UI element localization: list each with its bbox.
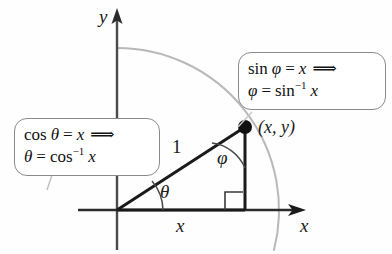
x-axis-label: x [300,216,308,235]
sin-value-x: x [299,59,307,78]
inverse-trig-diagram: y x 1 x θ φ (x, y) cosθ=x⟹ θ=cos−1x sinφ… [0,0,392,254]
cos-inverse-equals-sign: = [36,147,46,166]
cosine-callout-tail [47,175,52,190]
sine-callout-line-1: sinφ=x⟹ [248,58,376,79]
vertex-coordinate-label: (x, y) [258,118,295,136]
sin-function-name: sin [248,59,268,78]
right-angle-marker [225,192,243,210]
sin-angle-symbol: φ [272,59,281,78]
sin-inverse-equals-sign: = [261,81,271,100]
cosine-callout-box: cosθ=x⟹ θ=cos−1x [14,118,160,176]
sin-inverse-exponent: −1 [295,79,307,91]
sine-callout-line-2: φ=sin−1x [248,79,376,101]
cos-angle-symbol: θ [51,125,59,144]
sin-inverse-value-x: x [311,81,319,100]
sin-implies-arrow: ⟹ [312,59,336,78]
theta-angle-label: θ [160,182,169,201]
cos-inverse-function-name: cos [50,147,73,166]
cos-equals-sign: = [63,125,73,144]
cos-function-name: cos [24,125,47,144]
cos-value-x: x [77,125,85,144]
cosine-callout-line-2: θ=cos−1x [24,145,150,167]
cosine-callout-line-1: cosθ=x⟹ [24,124,150,145]
base-length-label: x [176,216,184,235]
cos-inverse-exponent: −1 [73,145,85,157]
sin-inverse-angle-symbol: φ [248,81,257,100]
sine-callout-box: sinφ=x⟹ φ=sin−1x [238,52,386,110]
vertex-point-dot [238,120,252,134]
sin-inverse-function-name: sin [275,81,295,100]
cos-inverse-angle-symbol: θ [24,147,32,166]
y-axis-label: y [99,7,107,26]
cos-implies-arrow: ⟹ [90,125,114,144]
cos-inverse-value-x: x [88,147,96,166]
sin-equals-sign: = [285,59,295,78]
phi-angle-label: φ [217,148,228,167]
hypotenuse-length-label: 1 [172,137,182,156]
